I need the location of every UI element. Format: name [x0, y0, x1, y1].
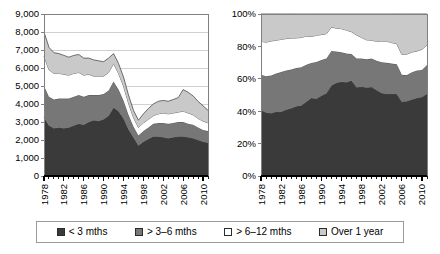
absolute-area-chart: 01,0002,0003,0004,0005,0006,0007,0008,00…	[0, 0, 220, 215]
legend-swatch-icon	[135, 228, 143, 236]
x-axis-tick-label: 2010	[198, 184, 209, 205]
x-axis-tick-label: 1994	[336, 184, 347, 205]
y-axis-tick-label: 7,000	[15, 44, 39, 55]
x-axis-tick-label: 1998	[138, 184, 149, 205]
legend-item[interactable]: < 3 mths	[57, 227, 108, 237]
legend-item-label: < 3 mths	[69, 227, 108, 237]
x-axis-tick-label: 2006	[396, 184, 407, 205]
chart-legend: < 3 mths > 3–6 mths > 6–12 mths Over 1 y…	[36, 221, 404, 243]
chart-panel-percentage: 0%20%40%60%80%100%1978198219861990199419…	[215, 0, 435, 215]
y-axis-tick-label: 0%	[242, 170, 256, 181]
y-axis-tick-label: 8,000	[15, 26, 39, 37]
legend-swatch-icon	[57, 228, 65, 236]
chart-panel-absolute: 01,0002,0003,0004,0005,0006,0007,0008,00…	[0, 0, 220, 215]
x-axis-tick-label: 1990	[98, 184, 109, 205]
y-axis-tick-label: 0	[34, 170, 39, 181]
x-axis-tick-label: 2002	[158, 184, 169, 205]
y-axis-tick-label: 4,000	[15, 98, 39, 109]
y-axis-tick-label: 2,000	[15, 134, 39, 145]
y-axis-tick-label: 3,000	[15, 116, 39, 127]
legend-item[interactable]: > 6–12 mths	[224, 227, 291, 237]
x-axis-tick-label: 2002	[376, 184, 387, 205]
legend-swatch-icon	[319, 228, 327, 236]
x-axis-tick-label: 2010	[416, 184, 427, 205]
x-axis-tick-label: 1982	[58, 184, 69, 205]
legend-item[interactable]: > 3–6 mths	[135, 227, 197, 237]
legend-swatch-icon	[224, 228, 232, 236]
y-axis-tick-label: 100%	[232, 8, 257, 19]
x-axis-tick-label: 1978	[256, 184, 267, 205]
x-axis-tick-label: 1990	[316, 184, 327, 205]
y-axis-tick-label: 1,000	[15, 152, 39, 163]
legend-item-label: > 3–6 mths	[147, 227, 197, 237]
y-axis-tick-label: 6,000	[15, 62, 39, 73]
x-axis-tick-label: 1978	[39, 184, 50, 205]
chart-figure: 01,0002,0003,0004,0005,0006,0007,0008,00…	[0, 0, 440, 254]
y-axis-tick-label: 80%	[237, 41, 257, 52]
x-axis-tick-label: 1986	[78, 184, 89, 205]
x-axis-tick-label: 1986	[296, 184, 307, 205]
legend-item-label: > 6–12 mths	[236, 227, 291, 237]
x-axis-tick-label: 1982	[276, 184, 287, 205]
y-axis-tick-label: 5,000	[15, 80, 39, 91]
y-axis-tick-label: 60%	[237, 73, 257, 84]
y-axis-tick-label: 9,000	[15, 8, 39, 19]
x-axis-tick-label: 1994	[118, 184, 129, 205]
x-axis-tick-label: 1998	[356, 184, 367, 205]
y-axis-tick-label: 40%	[237, 106, 257, 117]
x-axis-tick-label: 2006	[178, 184, 189, 205]
y-axis-tick-label: 20%	[237, 138, 257, 149]
percentage-area-chart: 0%20%40%60%80%100%1978198219861990199419…	[215, 0, 440, 215]
legend-item-label: Over 1 year	[331, 227, 383, 237]
legend-item[interactable]: Over 1 year	[319, 227, 383, 237]
